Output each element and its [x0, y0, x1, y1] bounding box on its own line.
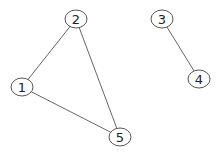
- edge-2-1: [22, 19, 76, 87]
- node-3: 3: [151, 10, 173, 28]
- node-5: 5: [109, 128, 131, 146]
- node-label: 4: [195, 72, 203, 87]
- node-1: 1: [11, 78, 33, 96]
- edge-2-5: [76, 19, 120, 137]
- node-label: 2: [72, 12, 80, 27]
- edges-layer: [22, 19, 199, 137]
- graph-diagram: 12345: [0, 0, 224, 156]
- edge-1-5: [22, 87, 120, 137]
- node-label: 3: [158, 12, 166, 27]
- edge-3-4: [162, 19, 199, 79]
- node-4: 4: [188, 70, 210, 88]
- graph-canvas: 12345: [0, 0, 224, 156]
- nodes-layer: 12345: [11, 10, 210, 146]
- node-label: 5: [116, 130, 124, 145]
- node-label: 1: [18, 80, 26, 95]
- node-2: 2: [65, 10, 87, 28]
